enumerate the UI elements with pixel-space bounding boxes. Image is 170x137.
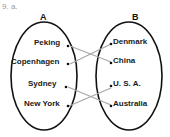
set-a-title: A xyxy=(40,12,47,22)
element-australia: Australia xyxy=(113,99,147,108)
dot-denmark xyxy=(110,43,113,46)
element-copenhagen: Copenhagen xyxy=(11,57,59,66)
dot-peking xyxy=(67,45,70,48)
element-peking: Peking xyxy=(34,38,60,47)
mapping-diagram xyxy=(0,0,170,137)
dot-newyork xyxy=(67,105,70,108)
element-china: China xyxy=(113,56,135,65)
dot-australia xyxy=(110,105,113,108)
arrow-copenhagen-denmark xyxy=(70,44,111,64)
set-b-title: B xyxy=(132,12,139,22)
element-usa: U. S. A. xyxy=(113,79,141,88)
dot-sydney xyxy=(65,86,68,89)
dot-china xyxy=(110,62,113,65)
element-denmark: Denmark xyxy=(113,37,147,46)
element-new-york: New York xyxy=(24,99,60,108)
element-sydney: Sydney xyxy=(28,79,56,88)
dot-usa xyxy=(110,85,113,88)
dot-copenhagen xyxy=(67,63,70,66)
